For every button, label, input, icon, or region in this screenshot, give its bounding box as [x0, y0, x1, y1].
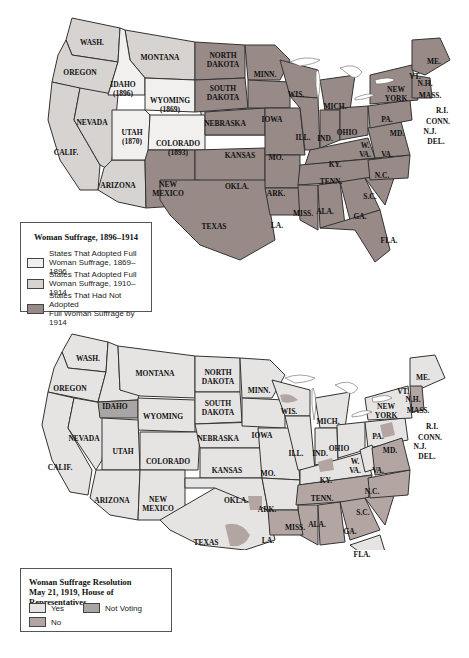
label-arizona: ARIZONA: [94, 496, 129, 505]
swatch-yes: [29, 603, 46, 613]
label-mo: MO.: [269, 153, 284, 162]
label-okla: OKLA.: [224, 496, 248, 505]
label-kansas: KANSAS: [212, 466, 242, 475]
label-me: ME.: [427, 57, 441, 66]
label-ill: ILL.: [289, 449, 304, 458]
label-mo: MO.: [261, 469, 276, 478]
label-mass: MASS.: [419, 91, 442, 100]
label-sc: S.C.: [356, 508, 369, 517]
label-nj: N.J.: [414, 442, 427, 451]
label-conn: CONN.: [426, 117, 450, 126]
label-iowa: IOWA: [252, 431, 273, 440]
label-north-dakota: NORTHDAKOTA: [202, 368, 234, 386]
label-ark: ARK.: [267, 189, 286, 198]
label-ky: KY.: [320, 476, 332, 485]
label-new-york: NEWYORK: [375, 402, 398, 420]
label-la: LA.: [271, 221, 283, 230]
label-nj: N.J.: [424, 127, 437, 136]
label-miss: MISS.: [285, 523, 305, 532]
label-md: MD.: [383, 446, 397, 455]
label-fla: FLA.: [354, 550, 371, 559]
label-idaho: IDAHO(1896): [110, 80, 135, 98]
label-texas: TEXAS: [193, 538, 218, 547]
label-mass: MASS.: [407, 406, 430, 415]
swatch-1869-1896: [27, 258, 44, 268]
legend-label: No: [51, 618, 61, 627]
label-miss: MISS.: [293, 209, 313, 218]
label-ill: ILL.: [296, 133, 311, 142]
label-iowa: IOWA: [262, 115, 283, 124]
label-oregon: OREGON: [53, 384, 86, 393]
swatch-no: [29, 617, 46, 627]
label-pa: PA.: [372, 432, 383, 441]
legend-item-not-voting: Not Voting: [83, 603, 142, 613]
legend-label: Not Voting: [105, 604, 142, 613]
label-ga: GA.: [353, 212, 366, 221]
label-new-mexico: NEWMEXICO: [142, 495, 174, 513]
label-minn: MINN.: [254, 70, 277, 79]
label-idaho: IDAHO: [102, 402, 127, 411]
label-ind: IND.: [312, 449, 328, 458]
label-montana: MONTANA: [135, 369, 174, 378]
label-nebraska: NEBRASKA: [197, 434, 239, 443]
state-iowa: [242, 398, 285, 428]
label-colorado: COLORADO(1893): [156, 139, 200, 157]
label-pa: PA.: [381, 115, 392, 124]
label-sc: S.C.: [363, 192, 376, 201]
label-w-va: W.VA.: [349, 457, 361, 475]
label-arizona: ARIZONA: [100, 181, 135, 190]
label-minn: MINN.: [248, 386, 271, 395]
label-colorado: COLORADO: [146, 457, 190, 466]
label-del: DEL.: [427, 137, 444, 146]
label-wis: WIS.: [281, 407, 297, 416]
label-calif: CALIF.: [54, 148, 79, 157]
label-nevada: NEVADA: [76, 118, 107, 127]
label-nc: N.C.: [375, 171, 390, 180]
label-south-dakota: SOUTHDAKOTA: [207, 84, 239, 102]
label-kansas: KANSAS: [225, 151, 255, 160]
state-utah: [102, 418, 140, 470]
label-md: MD.: [390, 129, 404, 138]
label-ohio: OHIO: [337, 128, 357, 137]
label-conn: CONN.: [418, 433, 442, 442]
label-new-mexico: NEWMEXICO: [152, 180, 184, 198]
label-nebraska: NEBRASKA: [204, 119, 246, 128]
label-nevada: NEVADA: [68, 434, 99, 443]
label-ind: IND.: [317, 134, 333, 143]
label-utah: UTAH(1870): [121, 128, 142, 146]
legend-suffrage-1896-1914: Woman Suffrage, 1896–1914 States That Ad…: [20, 222, 152, 312]
state-miss: [298, 185, 318, 230]
label-me: ME.: [416, 373, 430, 382]
label-mich: MICH.: [323, 102, 346, 111]
label-oregon: OREGON: [63, 68, 96, 77]
label-wis: WIS.: [288, 90, 304, 99]
label-nc: N.C.: [365, 487, 380, 496]
label-north-dakota: NORTHDAKOTA: [207, 51, 239, 69]
label-wash: WASH.: [80, 38, 104, 47]
label-ohio: OHIO: [329, 444, 349, 453]
label-tenn: TENN.: [311, 494, 334, 503]
swatch-not-voting: [83, 603, 100, 613]
label-ark: ARK.: [258, 505, 277, 514]
label-south-dakota: SOUTHDAKOTA: [202, 399, 234, 417]
swatch-1910-1914: [27, 279, 44, 289]
label-w-va: W.VA.: [359, 141, 371, 159]
label-wyoming: WYOMING: [143, 412, 183, 421]
legend-label: Yes: [51, 604, 64, 613]
label-ga: GA.: [343, 527, 356, 536]
label-ala: ALA.: [308, 520, 326, 529]
legend-title: Woman Suffrage, 1896–1914: [21, 232, 151, 242]
label-mich: MICH.: [316, 417, 339, 426]
label-la: LA.: [262, 536, 274, 545]
label-va: VA.: [381, 150, 393, 159]
label-montana: MONTANA: [140, 53, 179, 62]
legend-suffrage-resolution-1919: Woman Suffrage ResolutionMay 21, 1919, H…: [20, 568, 172, 632]
label-ri: R.I.: [436, 106, 448, 115]
state-iowa: [248, 80, 290, 108]
label-fla: FLA.: [381, 236, 398, 245]
label-ky: KY.: [329, 160, 341, 169]
label-nh: N.H.: [418, 79, 433, 88]
label-okla: OKLA.: [225, 182, 249, 191]
label-tenn: TENN.: [320, 177, 343, 186]
swatch-not-adopted: [27, 304, 44, 314]
